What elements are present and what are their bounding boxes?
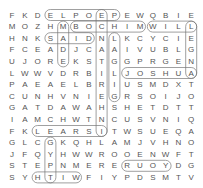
grid-cell[interactable]: H bbox=[160, 137, 172, 148]
grid-cell[interactable]: W bbox=[19, 68, 31, 79]
grid-cell[interactable]: E bbox=[185, 10, 197, 21]
grid-cell[interactable]: D bbox=[83, 33, 95, 44]
grid-cell[interactable]: J bbox=[134, 137, 146, 148]
grid-cell[interactable]: E bbox=[57, 79, 69, 90]
grid-cell[interactable]: E bbox=[83, 160, 95, 171]
grid-cell[interactable]: I bbox=[108, 79, 120, 90]
grid-cell[interactable]: K bbox=[19, 10, 31, 21]
grid-cell[interactable]: E bbox=[134, 149, 146, 160]
grid-cell[interactable]: Y bbox=[44, 149, 56, 160]
grid-cell[interactable]: Y bbox=[160, 160, 172, 171]
grid-cell[interactable]: B bbox=[83, 68, 95, 79]
grid-cell[interactable]: A bbox=[108, 137, 120, 148]
grid-cell[interactable]: B bbox=[83, 79, 95, 90]
grid-cell[interactable]: B bbox=[70, 21, 82, 32]
grid-cell[interactable]: V bbox=[57, 91, 69, 102]
grid-cell[interactable]: R bbox=[121, 91, 133, 102]
grid-cell[interactable]: Q bbox=[32, 149, 44, 160]
grid-cell[interactable]: A bbox=[57, 102, 69, 113]
grid-cell[interactable]: H bbox=[160, 68, 172, 79]
grid-cell[interactable]: P bbox=[44, 160, 56, 171]
grid-cell[interactable]: S bbox=[147, 68, 159, 79]
grid-cell[interactable]: T bbox=[32, 102, 44, 113]
grid-cell[interactable]: T bbox=[108, 126, 120, 137]
grid-cell[interactable]: F bbox=[6, 10, 18, 21]
grid-cell[interactable]: T bbox=[83, 114, 95, 125]
grid-cell[interactable]: D bbox=[32, 10, 44, 21]
grid-cell[interactable]: J bbox=[121, 68, 133, 79]
grid-cell[interactable]: W bbox=[134, 10, 146, 21]
grid-cell[interactable]: P bbox=[134, 56, 146, 67]
grid-cell[interactable]: O bbox=[19, 21, 31, 32]
grid-cell[interactable]: T bbox=[172, 172, 184, 183]
grid-cell[interactable]: S bbox=[134, 126, 146, 137]
grid-cell[interactable]: O bbox=[121, 149, 133, 160]
grid-cell[interactable]: S bbox=[134, 91, 146, 102]
grid-cell[interactable]: W bbox=[121, 126, 133, 137]
grid-cell[interactable]: N bbox=[57, 160, 69, 171]
grid-cell[interactable]: T bbox=[185, 102, 197, 113]
grid-cell[interactable]: P bbox=[6, 79, 18, 90]
grid-cell[interactable]: R bbox=[147, 56, 159, 67]
grid-cell[interactable]: R bbox=[96, 149, 108, 160]
grid-cell[interactable]: A bbox=[108, 44, 120, 55]
grid-cell[interactable]: O bbox=[108, 149, 120, 160]
grid-cell[interactable]: G bbox=[108, 91, 120, 102]
grid-cell[interactable]: I bbox=[172, 33, 184, 44]
grid-cell[interactable]: I bbox=[96, 126, 108, 137]
grid-cell[interactable]: W bbox=[32, 68, 44, 79]
grid-cell[interactable]: U bbox=[147, 44, 159, 55]
grid-cell[interactable]: E bbox=[108, 160, 120, 171]
grid-cell[interactable]: L bbox=[172, 21, 184, 32]
grid-cell[interactable]: I bbox=[96, 68, 108, 79]
grid-cell[interactable]: J bbox=[19, 56, 31, 67]
grid-cell[interactable]: E bbox=[134, 102, 146, 113]
grid-cell[interactable]: F bbox=[6, 44, 18, 55]
grid-cell[interactable]: G bbox=[160, 56, 172, 67]
grid-cell[interactable]: C bbox=[19, 44, 31, 55]
grid-cell[interactable]: S bbox=[6, 160, 18, 171]
grid-cell[interactable]: F bbox=[172, 149, 184, 160]
grid-cell[interactable]: C bbox=[134, 33, 146, 44]
grid-cell[interactable]: E bbox=[32, 44, 44, 55]
grid-cell[interactable]: M bbox=[160, 172, 172, 183]
grid-cell[interactable]: Y bbox=[147, 33, 159, 44]
grid-cell[interactable]: L bbox=[185, 21, 197, 32]
grid-cell[interactable]: L bbox=[19, 137, 31, 148]
grid-cell[interactable]: B bbox=[160, 44, 172, 55]
grid-cell[interactable]: E bbox=[32, 160, 44, 171]
grid-cell[interactable]: G bbox=[121, 56, 133, 67]
grid-cell[interactable]: W bbox=[70, 102, 82, 113]
grid-cell[interactable]: N bbox=[160, 114, 172, 125]
grid-cell[interactable]: I bbox=[96, 172, 108, 183]
grid-cell[interactable]: D bbox=[134, 172, 146, 183]
grid-cell[interactable]: K bbox=[57, 137, 69, 148]
grid-cell[interactable]: Q bbox=[147, 10, 159, 21]
grid-cell[interactable]: O bbox=[83, 21, 95, 32]
grid-cell[interactable]: C bbox=[108, 114, 120, 125]
grid-cell[interactable]: E bbox=[121, 10, 133, 21]
grid-cell[interactable]: R bbox=[44, 56, 56, 67]
grid-cell[interactable]: N bbox=[172, 137, 184, 148]
grid-cell[interactable]: D bbox=[57, 68, 69, 79]
grid-cell[interactable]: Y bbox=[108, 172, 120, 183]
grid-cell[interactable]: P bbox=[108, 10, 120, 21]
grid-cell[interactable]: U bbox=[134, 160, 146, 171]
grid-cell[interactable]: H bbox=[44, 21, 56, 32]
grid-cell[interactable]: I bbox=[6, 114, 18, 125]
grid-cell[interactable]: A bbox=[57, 126, 69, 137]
grid-cell[interactable]: H bbox=[83, 137, 95, 148]
grid-cell[interactable]: A bbox=[44, 79, 56, 90]
grid-cell[interactable]: Y bbox=[19, 172, 31, 183]
grid-cell[interactable]: Z bbox=[32, 21, 44, 32]
grid-cell[interactable]: K bbox=[121, 33, 133, 44]
grid-cell[interactable]: G bbox=[44, 137, 56, 148]
grid-cell[interactable]: J bbox=[172, 91, 184, 102]
grid-cell[interactable]: A bbox=[83, 102, 95, 113]
grid-cell[interactable]: W bbox=[70, 149, 82, 160]
grid-cell[interactable]: T bbox=[44, 172, 56, 183]
grid-cell[interactable]: E bbox=[96, 10, 108, 21]
grid-cell[interactable]: A bbox=[19, 102, 31, 113]
grid-cell[interactable]: P bbox=[70, 10, 82, 21]
grid-cell[interactable]: H bbox=[44, 91, 56, 102]
